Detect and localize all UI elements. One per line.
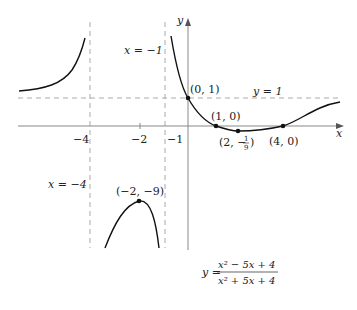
point-y-intercept (186, 96, 191, 101)
label-y-intercept: (0, 1) (190, 83, 220, 96)
svg-text:x² − 5x + 4: x² − 5x + 4 (218, 259, 276, 270)
label-local-max: (−2, −9) (116, 185, 164, 198)
svg-text:9: 9 (244, 144, 248, 152)
rational-function-graph: x y −4 −2 −1 x = −1 x = −4 y = 1 (−2, −9… (0, 0, 357, 310)
svg-text:): ) (250, 136, 254, 149)
label-root-1: (1, 0) (211, 110, 241, 123)
svg-text:1: 1 (244, 135, 248, 143)
curve-left-branch (19, 38, 85, 91)
label-root-2: (4, 0) (269, 135, 299, 148)
asymptote-label-x-minus-1: x = −1 (124, 44, 163, 57)
x-axis-label: x (336, 127, 343, 140)
x-tick-label-minus-4: −4 (73, 133, 89, 146)
function-equation: y = x² − 5x + 4 x² + 5x + 4 (201, 259, 278, 286)
point-root-2 (281, 124, 286, 129)
asymptote-label-y-1: y = 1 (252, 85, 282, 98)
label-local-min: (2, − 1 9 ) (219, 135, 254, 152)
point-local-min (236, 129, 241, 134)
asymptote-label-x-minus-4: x = −4 (48, 178, 87, 191)
y-axis-arrow-icon (185, 18, 191, 26)
svg-text:(2, −: (2, − (219, 136, 247, 149)
curve-middle-branch (105, 201, 159, 248)
point-root-1 (214, 124, 219, 129)
svg-text:x² + 5x + 4: x² + 5x + 4 (218, 275, 276, 286)
x-tick-label-minus-1: −1 (167, 133, 183, 146)
point-local-max (137, 199, 142, 204)
y-axis-label: y (176, 14, 184, 27)
x-tick-label-minus-2: −2 (131, 133, 147, 146)
